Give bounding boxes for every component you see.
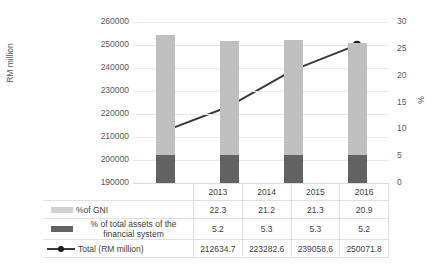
table-cell-value: 21.3: [291, 201, 340, 219]
legend-cell: Total (RM million): [43, 240, 194, 258]
y-axis-tick-label: 220000: [85, 109, 129, 118]
y-axis-title: RM million: [5, 33, 15, 93]
secondary-y-axis-tick-label: 15: [397, 98, 421, 107]
chart-container: RM million % 260000250000240000230000220…: [0, 0, 446, 274]
bar-segment-total-assets[interactable]: [220, 155, 239, 183]
secondary-y-axis-tick-label: 5: [397, 151, 421, 160]
bar-stack[interactable]: [348, 22, 367, 183]
table-row: Total (RM million)212634.7223282.6239058…: [43, 240, 389, 258]
secondary-y-axis-tick-label: 30: [397, 17, 421, 26]
secondary-y-axis-tick-label: 25: [397, 44, 421, 53]
table-cell-value: 20.9: [340, 201, 389, 219]
bar-segment-gni[interactable]: [220, 41, 239, 155]
table-row: %of GNI22.321.221.320.9: [43, 201, 389, 219]
secondary-y-axis-tick-label: 10: [397, 124, 421, 133]
y-axis-tick-label: 260000: [85, 17, 129, 26]
legend-label: % of total assets of the financial syste…: [76, 219, 191, 239]
table-cell-value: 239058.6: [291, 240, 340, 258]
bar-segment-total-assets[interactable]: [284, 155, 303, 183]
table-cell-value: 250071.8: [340, 240, 389, 258]
secondary-y-axis-tick-label: 0: [397, 178, 421, 187]
table-cell-year: 2013: [194, 183, 243, 201]
legend-cell: %of GNI: [43, 201, 194, 219]
y-axis-tick-label: 210000: [85, 132, 129, 141]
legend-swatch-total-assets: [51, 226, 73, 232]
table-cell-value: 22.3: [194, 201, 243, 219]
table-cell-year: 2014: [242, 183, 291, 201]
table-cell-value: 223282.6: [242, 240, 291, 258]
bar-segment-gni[interactable]: [156, 35, 175, 155]
legend-cell: [43, 183, 194, 201]
bar-segment-total-assets[interactable]: [348, 155, 367, 183]
table-cell-value: 5.2: [340, 219, 389, 240]
table-cell-year: 2016: [340, 183, 389, 201]
bar-stack[interactable]: [220, 22, 239, 183]
table-cell-value: 212634.7: [194, 240, 243, 258]
table-cell-value: 21.2: [242, 201, 291, 219]
bar-segment-total-assets[interactable]: [156, 155, 175, 183]
bar-segment-gni[interactable]: [348, 43, 367, 155]
y-axis-tick-label: 200000: [85, 155, 129, 164]
plot-area: 2600002500002400002300002200002100002000…: [133, 22, 389, 183]
legend-label: Total (RM million): [78, 244, 191, 254]
table-row: % of total assets of the financial syste…: [43, 219, 389, 240]
table-row: 2013201420152016: [43, 183, 389, 201]
legend-swatch-gni: [51, 207, 73, 213]
legend-label: %of GNI: [76, 205, 191, 215]
legend-cell: % of total assets of the financial syste…: [43, 219, 194, 240]
bar-segment-gni[interactable]: [284, 40, 303, 154]
y-axis-tick-label: 250000: [85, 40, 129, 49]
table-cell-value: 5.3: [291, 219, 340, 240]
chart-data-table: 2013201420152016%of GNI22.321.221.320.9%…: [43, 183, 389, 258]
bar-stack[interactable]: [284, 22, 303, 183]
table-cell-year: 2015: [291, 183, 340, 201]
table-cell-value: 5.3: [242, 219, 291, 240]
table-cell-value: 5.2: [194, 219, 243, 240]
secondary-y-axis-tick-label: 20: [397, 71, 421, 80]
bar-stack[interactable]: [156, 22, 175, 183]
total-line-path: [165, 45, 357, 131]
y-axis-tick-label: 230000: [85, 86, 129, 95]
y-axis-tick-label: 240000: [85, 63, 129, 72]
legend-marker-total-line: [47, 245, 75, 253]
